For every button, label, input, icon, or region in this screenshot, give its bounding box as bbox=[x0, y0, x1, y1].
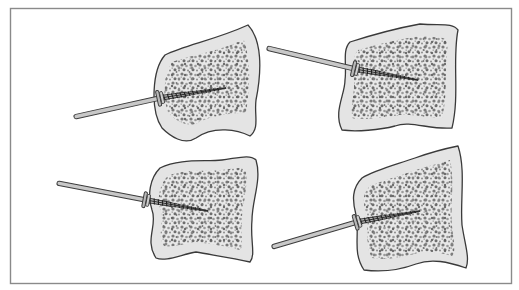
bone-screw-illustration bbox=[0, 0, 519, 290]
figure-canvas bbox=[0, 0, 519, 290]
cancellous-bone-texture bbox=[159, 168, 247, 250]
